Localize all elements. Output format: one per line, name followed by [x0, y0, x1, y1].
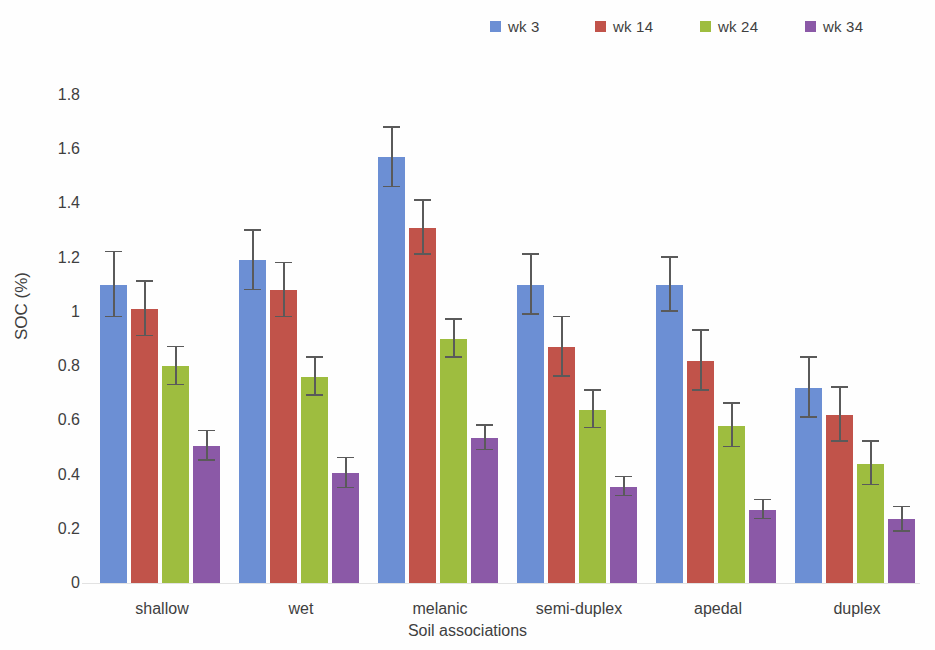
bar-column[interactable]	[301, 95, 328, 583]
bar[interactable]	[131, 309, 158, 583]
error-bar-line	[592, 391, 594, 429]
bar-column[interactable]	[193, 95, 220, 583]
error-bar-line	[530, 255, 532, 315]
bar-column[interactable]	[718, 95, 745, 583]
error-bar-cap-upper	[754, 499, 771, 501]
x-axis-category-label: shallow	[135, 600, 188, 618]
bar-column[interactable]	[332, 95, 359, 583]
error-bar-cap-upper	[414, 199, 431, 201]
error-bar-cap-lower	[800, 416, 817, 418]
y-axis-ticks: 1.81.61.41.210.80.60.40.20	[28, 95, 80, 583]
bar[interactable]	[471, 438, 498, 583]
error-bar-line	[252, 231, 254, 291]
error-bar-cap-lower	[306, 394, 323, 396]
error-bar-cap-upper	[661, 256, 678, 258]
error-bar-cap-upper	[800, 356, 817, 358]
bar-column[interactable]	[826, 95, 853, 583]
bar-group: duplex	[795, 95, 919, 583]
bar-column[interactable]	[610, 95, 637, 583]
legend-swatch-icon	[490, 21, 501, 32]
bar[interactable]	[409, 228, 436, 583]
error-bar-cap-lower	[198, 459, 215, 461]
bar-group: shallow	[100, 95, 224, 583]
bar[interactable]	[239, 260, 266, 583]
x-axis-category-label: duplex	[833, 600, 880, 618]
error-bar-cap-lower	[383, 186, 400, 188]
x-axis-category-label: wet	[289, 600, 314, 618]
bar-column[interactable]	[749, 95, 776, 583]
bar-column[interactable]	[162, 95, 189, 583]
bar[interactable]	[517, 285, 544, 583]
y-axis-tick-label: 0.2	[34, 520, 80, 538]
error-bar-cap-upper	[275, 262, 292, 264]
y-axis-tick-label: 1	[34, 303, 80, 321]
error-bar-line	[484, 426, 486, 450]
bar[interactable]	[378, 157, 405, 583]
legend-item[interactable]: wk 14	[595, 18, 700, 35]
bar[interactable]	[610, 487, 637, 583]
error-bar-cap-upper	[831, 386, 848, 388]
bar[interactable]	[301, 377, 328, 583]
bar-column[interactable]	[888, 95, 915, 583]
error-bar-cap-lower	[136, 335, 153, 337]
bar[interactable]	[162, 366, 189, 583]
error-bar-cap-lower	[584, 427, 601, 429]
error-bar-line	[422, 201, 424, 255]
bar[interactable]	[193, 446, 220, 583]
bar-column[interactable]	[471, 95, 498, 583]
error-bar-line	[113, 252, 115, 317]
error-bar-cap-upper	[105, 251, 122, 253]
legend-item[interactable]: wk 24	[700, 18, 805, 35]
error-bar-cap-upper	[136, 280, 153, 282]
bar-chart: wk 3wk 14wk 24wk 34 SOC (%) 1.81.61.41.2…	[0, 0, 935, 650]
bar-column[interactable]	[409, 95, 436, 583]
bar[interactable]	[270, 290, 297, 583]
bar-column[interactable]	[517, 95, 544, 583]
bar-column[interactable]	[548, 95, 575, 583]
error-bar-cap-lower	[337, 487, 354, 489]
bar-column[interactable]	[239, 95, 266, 583]
bar[interactable]	[749, 510, 776, 583]
legend-swatch-icon	[595, 21, 606, 32]
y-axis-tick-label: 1.2	[34, 249, 80, 267]
error-bar-line	[901, 507, 903, 531]
bar[interactable]	[687, 361, 714, 583]
error-bar-cap-lower	[522, 313, 539, 315]
error-bar-cap-upper	[383, 126, 400, 128]
bar-column[interactable]	[579, 95, 606, 583]
y-axis-tick-label: 1.6	[34, 140, 80, 158]
error-bar-cap-upper	[615, 476, 632, 478]
error-bar-cap-upper	[167, 346, 184, 348]
bar-column[interactable]	[795, 95, 822, 583]
error-bar-cap-upper	[445, 318, 462, 320]
error-bar-cap-upper	[306, 356, 323, 358]
error-bar-line	[762, 500, 764, 519]
bar-column[interactable]	[378, 95, 405, 583]
bar-column[interactable]	[440, 95, 467, 583]
error-bar-cap-upper	[198, 430, 215, 432]
bar-column[interactable]	[131, 95, 158, 583]
bar[interactable]	[332, 473, 359, 583]
bar-column[interactable]	[687, 95, 714, 583]
bar-column[interactable]	[656, 95, 683, 583]
bar-column[interactable]	[857, 95, 884, 583]
bar-column[interactable]	[270, 95, 297, 583]
error-bar-cap-lower	[831, 440, 848, 442]
legend-item[interactable]: wk 34	[805, 18, 910, 35]
error-bar-line	[808, 358, 810, 418]
error-bar-cap-upper	[522, 253, 539, 255]
bar-group: apedal	[656, 95, 780, 583]
error-bar-line	[453, 320, 455, 358]
error-bar-line	[623, 477, 625, 496]
bar[interactable]	[579, 410, 606, 584]
bar[interactable]	[656, 285, 683, 583]
error-bar-cap-upper	[553, 316, 570, 318]
bar-column[interactable]	[100, 95, 127, 583]
legend-item[interactable]: wk 3	[490, 18, 595, 35]
bar[interactable]	[100, 285, 127, 583]
bar[interactable]	[440, 339, 467, 583]
bar[interactable]	[548, 347, 575, 583]
error-bar-line	[700, 331, 702, 391]
y-axis-tick-label: 1.8	[34, 86, 80, 104]
bar[interactable]	[718, 426, 745, 583]
